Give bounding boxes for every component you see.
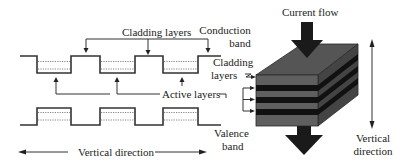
conduction-band-waveform — [20, 56, 221, 73]
active-layers-label: Active layers — [162, 88, 220, 100]
laser-structure-diagram: Cladding layers Active layers Conduction… — [0, 0, 394, 163]
cladding-side-label-line1: Cladding — [213, 56, 254, 68]
active-stripe-front — [256, 85, 318, 91]
vertical-direction-label-right-line1: Vertical — [356, 132, 390, 144]
cladding-side-pointer — [245, 74, 256, 79]
current-flow-arrow-out — [285, 126, 323, 155]
vertical-direction-label-bottom: Vertical direction — [78, 146, 155, 158]
conduction-band-label-line1: Conduction — [199, 24, 251, 36]
cladding-side-label-line2: layers — [211, 69, 237, 81]
vertical-direction-arrow-vertical — [370, 39, 375, 129]
valence-band-waveform — [20, 108, 221, 125]
vertical-direction-label-right-line2: direction — [353, 145, 393, 157]
active-stripe-front — [256, 97, 318, 103]
cladding-layers-leader — [84, 39, 211, 55]
conduction-band-label-line2: band — [229, 37, 251, 49]
valence-band-label-line2: band — [222, 140, 244, 152]
current-flow-label: Current flow — [282, 6, 339, 18]
cladding-layers-label: Cladding layers — [122, 26, 191, 38]
active-layers-bracket — [243, 86, 255, 113]
valence-band-label-line1: Valence — [214, 127, 249, 139]
active-stripe-front — [256, 109, 318, 115]
